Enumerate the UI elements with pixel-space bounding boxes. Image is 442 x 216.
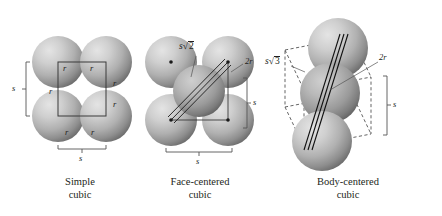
fcc-horizontal-brace — [166, 148, 232, 156]
fcc-edge-horizontal-label: s — [196, 157, 199, 166]
caption-simple-cubic-line1: Simple — [32, 176, 128, 189]
caption-face-centered-cubic: Face-centered cubic — [150, 176, 250, 202]
fcc-diameter-label: 2r — [245, 57, 253, 66]
sc-radius-label-3: r — [49, 87, 52, 96]
sc-radius-label-4: r — [113, 79, 116, 88]
bcc-edge-vertical-label: s — [393, 100, 396, 109]
bcc-spheres — [292, 18, 368, 171]
sc-radius-label-6: r — [65, 128, 68, 137]
crystal-lattice-figure: s s r r r r r r r s√2 2r s s s√3 2r s Si… — [0, 0, 442, 216]
simple-cubic-vertical-brace — [22, 62, 30, 116]
sc-edge-vertical-label: s — [12, 84, 15, 93]
fcc-face-diagonal-radicand: 2 — [188, 41, 194, 52]
fcc-edge-vertical-label: s — [253, 98, 256, 107]
caption-simple-cubic-line2: cubic — [32, 189, 128, 202]
bcc-body-diagonal-radicand: 3 — [274, 56, 280, 67]
simple-cubic-spheres — [32, 36, 132, 142]
sc-radius-label-2: r — [90, 64, 93, 73]
caption-body-centered-cubic-line1: Body-centered — [288, 176, 408, 189]
bcc-diameter-label: 2r — [379, 53, 387, 62]
bcc-diagonal-leader — [291, 66, 305, 72]
caption-simple-cubic: Simple cubic — [32, 176, 128, 202]
fcc-face-diagonal-label: s√2 — [179, 41, 194, 52]
simple-cubic-horizontal-brace — [58, 145, 106, 153]
bcc-body-diagonal-label: s√3 — [265, 56, 280, 67]
caption-body-centered-cubic-line2: cubic — [288, 189, 408, 202]
sc-radius-label-7: r — [91, 128, 94, 137]
bcc-vertical-brace — [383, 76, 391, 135]
sc-radius-label-1: r — [63, 64, 66, 73]
sc-radius-label-5: r — [113, 100, 116, 109]
caption-face-centered-cubic-line2: cubic — [150, 189, 250, 202]
caption-body-centered-cubic: Body-centered cubic — [288, 176, 408, 202]
caption-face-centered-cubic-line1: Face-centered — [150, 176, 250, 189]
sc-edge-horizontal-label: s — [79, 154, 82, 163]
